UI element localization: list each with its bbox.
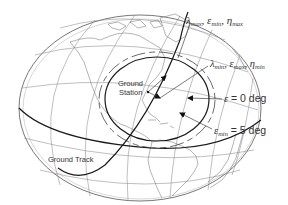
label-ground-track: Ground Track [48,155,94,164]
longitude-line [208,55,240,190]
station-radial-max [148,76,166,92]
south-america-west [148,142,162,198]
arctic-islands [108,20,162,30]
subscript-max: max [232,20,243,27]
eps-zero-value: = 0 deg [228,92,266,104]
label-ground-station-line2: Station [119,88,142,97]
subscript-max: max [191,20,202,27]
north-america-coast [70,33,165,122]
longitude-lines [51,15,253,200]
eps-min-value: = 5 deg [228,124,266,136]
subscript-min: min [218,130,228,137]
label-ground-station-line1: Ground [118,79,143,88]
label-eps-min: εmin = 5 deg [214,124,266,137]
globe-outline-inner [23,19,259,199]
zero-elevation-circle [99,52,215,148]
ground-station-dot [147,91,149,93]
subscript-min: min [255,63,265,70]
longitude-line [85,15,135,196]
subscript-min: min [215,63,225,70]
label-lambda-min: λmin, εmax, ηmin [209,58,265,70]
subscript-max: max [234,63,245,70]
caribbean [148,120,174,128]
label-eps-zero: ε = 0 deg [224,92,267,104]
leader-eps-zero [188,98,222,99]
min-elevation-circle [105,57,209,141]
label-lambda-max: λmax, εmin, ηmax [185,14,243,27]
central-america [126,126,152,142]
globe-diagram: λmax, εmin, ηmax λmin, εmax, ηmin ε = 0 … [0,0,288,205]
equator [19,108,261,148]
globe-outline [19,15,261,201]
subscript-min: min [211,20,221,27]
